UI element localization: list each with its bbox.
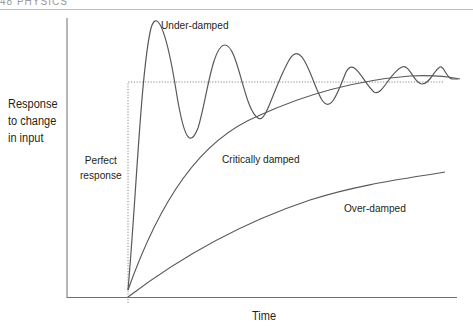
perfect-response-curve (128, 82, 443, 303)
y-axis-label-line-3: in input (8, 130, 58, 147)
perfect-label-line-2: response (80, 168, 122, 183)
under-damped-label: Under-damped (161, 18, 229, 33)
critically-damped-curve (128, 76, 460, 290)
perfect-response-label: Perfect response (80, 153, 122, 183)
y-axis-label-line-2: to change (8, 113, 58, 130)
over-damped-curve (128, 172, 445, 297)
critically-damped-label: Critically damped (222, 152, 300, 167)
x-axis-label: Time (252, 309, 276, 324)
over-damped-label: Over-damped (344, 201, 406, 216)
y-axis-label: Response to change in input (8, 96, 58, 147)
perfect-label-line-1: Perfect (80, 153, 122, 168)
y-axis-label-line-1: Response (8, 96, 58, 113)
